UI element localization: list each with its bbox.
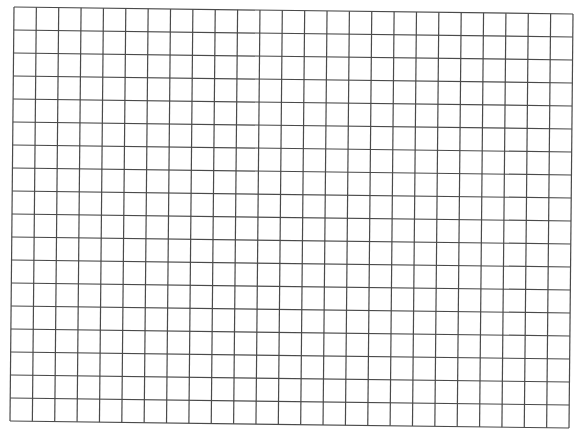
grid-horizontal-line <box>13 145 572 152</box>
grid-horizontal-line <box>13 122 572 129</box>
grid-horizontal-line <box>14 7 573 14</box>
grid-horizontal-line <box>14 30 573 37</box>
grid-horizontal-line <box>12 237 571 244</box>
grid-horizontal-line <box>12 260 571 267</box>
grid-horizontal-line <box>11 283 570 290</box>
grid-horizontal-line <box>11 306 570 313</box>
grid-horizontal-line <box>12 191 571 198</box>
grid-horizontal-line <box>10 421 569 428</box>
grid-horizontal-line <box>11 352 570 359</box>
grid-horizontal-line <box>10 398 569 405</box>
grid-horizontal-line <box>12 168 571 175</box>
grid-horizontal-line <box>13 99 572 106</box>
grid-horizontal-line <box>13 76 572 83</box>
grid-horizontal-line <box>14 53 573 60</box>
grid-horizontal-line <box>11 329 570 336</box>
grid-horizontal-line <box>12 214 571 221</box>
grid-paper <box>0 0 586 436</box>
grid-horizontal-line <box>10 375 569 382</box>
